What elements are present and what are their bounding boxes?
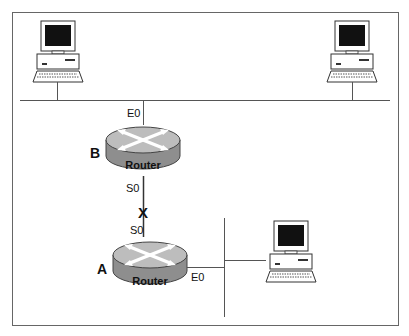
router-b-e0-label: E0 bbox=[127, 107, 140, 119]
router-a-e0-label: E0 bbox=[191, 271, 204, 283]
router-b-name: B bbox=[90, 145, 100, 161]
workstation-icon bbox=[327, 21, 377, 82]
router-b-device-text: Router bbox=[125, 159, 161, 171]
network-diagram: E0 Router B S0 X S0 Router A E0 bbox=[0, 0, 409, 336]
router-a-s0-label: S0 bbox=[130, 224, 143, 236]
workstation-icon bbox=[266, 221, 316, 282]
workstation-icon bbox=[33, 21, 83, 82]
router-a-name: A bbox=[97, 261, 107, 277]
link-failure-x-icon: X bbox=[138, 204, 148, 221]
router-b-s0-label: S0 bbox=[126, 182, 139, 194]
router-a-device-text: Router bbox=[132, 275, 168, 287]
